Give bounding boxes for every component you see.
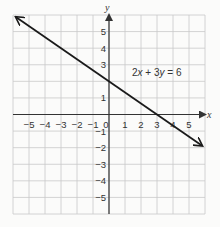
coordinate-plane: −5−4−3−2−10123455431−1−2−3−4−5 x y 2x + … xyxy=(0,0,220,227)
x-tick-label: −5 xyxy=(24,119,35,130)
x-axis-label: x xyxy=(206,109,212,120)
x-tick-label: −2 xyxy=(72,119,83,130)
axes xyxy=(13,15,205,214)
y-tick-label: 3 xyxy=(101,59,106,70)
x-tick-label: −4 xyxy=(40,119,51,130)
y-tick-label: −3 xyxy=(95,159,106,170)
y-tick-label: −5 xyxy=(95,192,106,203)
x-tick-label: −3 xyxy=(56,119,67,130)
x-tick-label: 3 xyxy=(154,119,159,130)
y-tick-label: −2 xyxy=(95,142,106,153)
y-tick-label: 5 xyxy=(101,26,106,37)
y-tick-label: 4 xyxy=(101,43,106,54)
x-tick-label: 2 xyxy=(138,119,143,130)
y-tick-label: −4 xyxy=(95,175,106,186)
x-tick-label: 1 xyxy=(122,119,127,130)
x-tick-label: 5 xyxy=(186,119,191,130)
y-tick-label: −1 xyxy=(95,126,106,137)
y-axis-label: y xyxy=(104,2,110,13)
y-tick-label: 1 xyxy=(101,92,106,103)
equation-label: 2x + 3y = 6 xyxy=(132,67,182,78)
